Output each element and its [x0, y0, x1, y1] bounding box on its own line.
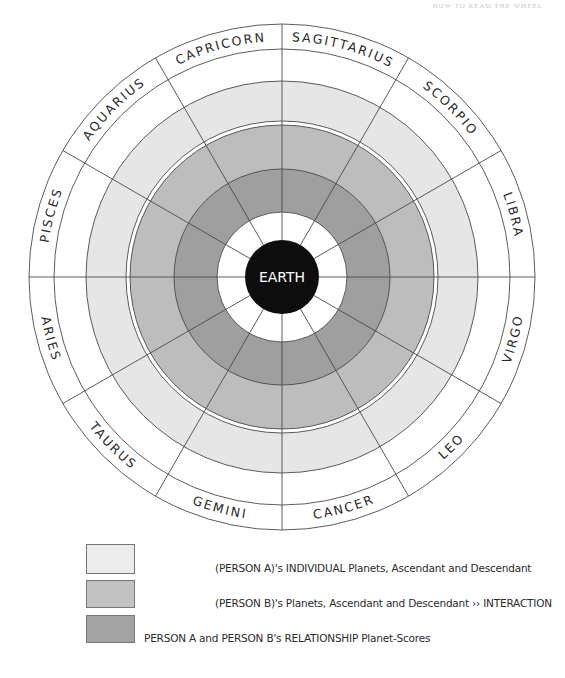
legend-label-relationship: PERSON A and PERSON B's RELATIONSHIP Pla…: [144, 632, 430, 644]
earth-label: EARTH: [259, 269, 305, 285]
earth-center: EARTH: [245, 240, 319, 314]
legend-swatch-person-b: [86, 580, 135, 608]
legend-label-person-a: (PERSON A)'s INDIVIDUAL Planets, Ascenda…: [215, 562, 531, 574]
legend-swatch-person-a: [86, 544, 135, 574]
legend-label-person-b: (PERSON B)'s Planets, Ascendant and Desc…: [215, 597, 552, 609]
zodiac-wheel: SAGITTARIUSSCORPIOLIBRAVIRGOLEOCANCERGEM…: [0, 0, 565, 545]
legend-swatch-relationship: [86, 615, 135, 643]
